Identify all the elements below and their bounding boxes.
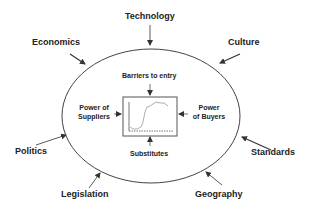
label-geography: Geography: [195, 189, 243, 199]
label-power-of-buyers: Power of Buyers: [190, 103, 228, 121]
label-power-of-buyers-line2: of Buyers: [190, 112, 228, 121]
label-power-of-buyers-line1: Power: [190, 103, 228, 112]
geography-arrow-icon: [206, 172, 222, 185]
label-culture: Culture: [228, 37, 260, 47]
diagram-graphics: [0, 0, 317, 212]
label-power-of-suppliers: Power of Suppliers: [75, 103, 113, 121]
label-power-of-suppliers-line1: Power of: [75, 103, 113, 112]
center-chart-box: [123, 97, 177, 136]
label-economics: Economics: [32, 37, 80, 47]
label-technology: Technology: [125, 11, 175, 21]
label-standards: Standards: [251, 147, 295, 157]
label-legislation: Legislation: [61, 189, 109, 199]
culture-arrow-icon: [220, 54, 240, 63]
diagram-canvas: Technology Economics Culture Politics St…: [0, 0, 317, 212]
legislation-arrow-icon: [89, 173, 100, 188]
politics-arrow-icon: [36, 135, 66, 145]
label-substitutes: Substitutes: [130, 149, 168, 158]
label-power-of-suppliers-line2: Suppliers: [75, 112, 113, 121]
label-barriers-to-entry: Barriers to entry: [122, 71, 176, 80]
economics-arrow-icon: [70, 54, 85, 64]
label-politics: Politics: [15, 146, 47, 156]
